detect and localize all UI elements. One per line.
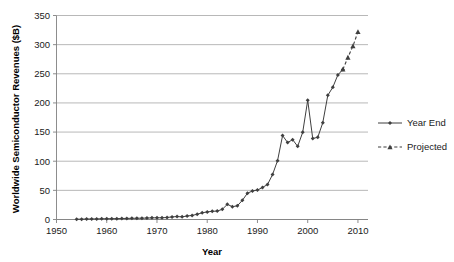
- data-point-marker: [260, 185, 264, 189]
- data-point-marker: [301, 130, 305, 134]
- data-point-marker: [185, 214, 189, 218]
- x-tick-label: 2010: [347, 225, 368, 236]
- x-tick-label: 1990: [247, 225, 268, 236]
- data-point-marker: [276, 159, 280, 163]
- data-point-marker: [165, 216, 169, 220]
- data-point-marker: [105, 217, 109, 221]
- data-point-marker: [80, 217, 84, 221]
- x-tick-label: 1970: [146, 225, 167, 236]
- x-axis-tick-labels: 1950196019701980199020002010: [46, 225, 369, 236]
- data-point-marker: [350, 44, 355, 49]
- data-point-marker: [230, 205, 234, 209]
- data-point-marker: [271, 173, 275, 177]
- data-point-marker: [100, 217, 104, 221]
- legend-label-projected[interactable]: Projected: [407, 141, 447, 152]
- chart-legend[interactable]: Year EndProjected: [378, 117, 447, 152]
- data-point-marker: [170, 215, 174, 219]
- data-point-marker: [180, 215, 184, 219]
- x-tick-label: 1960: [96, 225, 117, 236]
- data-point-marker: [250, 189, 254, 193]
- data-series: [75, 29, 361, 221]
- data-point-marker: [90, 217, 94, 221]
- data-point-marker: [85, 217, 89, 221]
- series-line-projected: [343, 32, 358, 70]
- y-tick-label: 300: [34, 39, 50, 50]
- data-point-marker: [355, 29, 360, 34]
- x-tick-label: 2000: [297, 225, 318, 236]
- y-tick-label: 50: [39, 185, 50, 196]
- legend-label-year-end[interactable]: Year End: [407, 117, 446, 128]
- data-point-marker: [266, 183, 270, 187]
- data-point-marker: [215, 209, 219, 213]
- gridlines: [57, 16, 369, 220]
- data-point-marker: [340, 67, 345, 72]
- data-point-marker: [210, 209, 214, 213]
- y-tick-label: 350: [34, 10, 50, 21]
- data-point-marker: [306, 98, 310, 102]
- x-axis-title: Year: [202, 246, 222, 257]
- data-point-marker: [345, 55, 350, 60]
- series-line-year-end: [77, 69, 343, 219]
- data-point-marker: [195, 212, 199, 216]
- data-point-marker: [316, 135, 320, 139]
- x-tick-label: 1980: [197, 225, 218, 236]
- y-axis-title: Worldwide Semiconductor Revenues ($B): [10, 25, 21, 213]
- semiconductor-revenue-line-chart: 050100150200250300350 195019601970198019…: [0, 0, 454, 262]
- data-point-marker: [75, 217, 79, 221]
- legend-swatch-marker: [388, 121, 392, 125]
- y-tick-label: 0: [45, 214, 50, 225]
- axes: [53, 16, 368, 224]
- y-tick-label: 100: [34, 156, 50, 167]
- y-tick-label: 250: [34, 68, 50, 79]
- y-tick-label: 150: [34, 126, 50, 137]
- chart-container: 050100150200250300350 195019601970198019…: [0, 0, 454, 262]
- data-point-marker: [321, 121, 325, 125]
- data-point-marker: [255, 188, 259, 192]
- x-tick-label: 1950: [46, 225, 67, 236]
- data-point-marker: [190, 213, 194, 217]
- data-point-marker: [175, 215, 179, 219]
- y-axis-tick-labels: 050100150200250300350: [34, 10, 50, 225]
- data-point-marker: [115, 217, 119, 221]
- data-point-marker: [110, 217, 114, 221]
- data-point-marker: [200, 211, 204, 215]
- data-point-marker: [95, 217, 99, 221]
- data-point-marker: [205, 210, 209, 214]
- y-tick-label: 200: [34, 97, 50, 108]
- data-point-marker: [311, 136, 315, 140]
